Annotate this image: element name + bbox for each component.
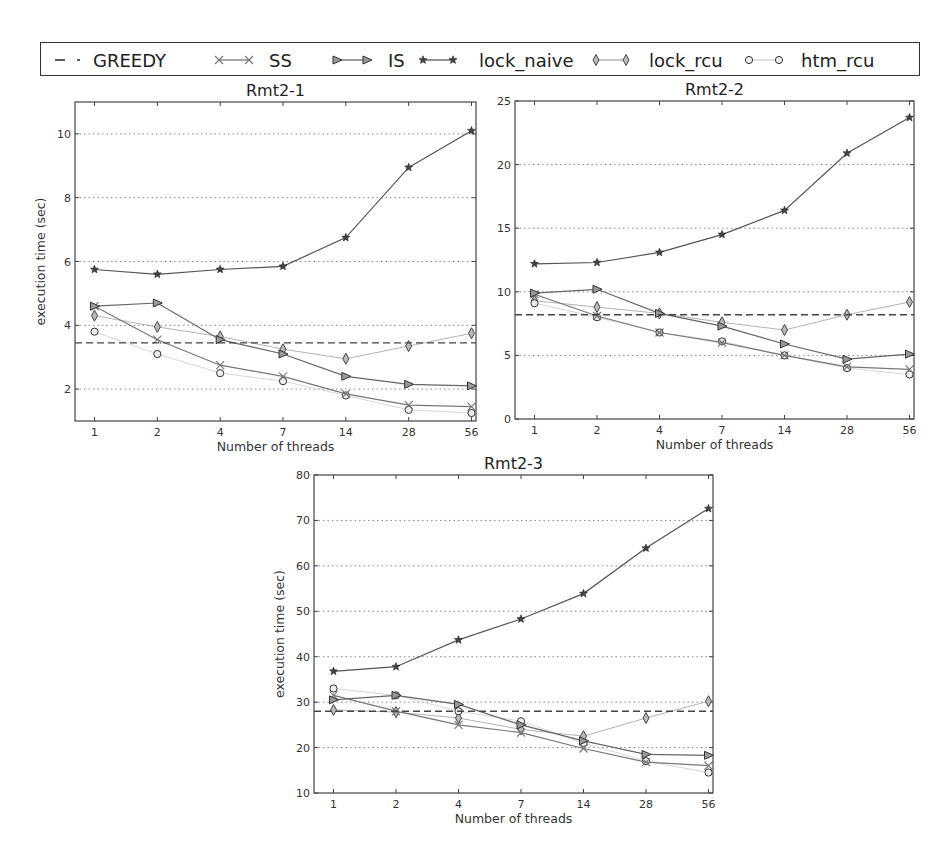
lock_rcu-marker: [343, 353, 349, 364]
x-axis-label: Number of threads: [455, 811, 573, 826]
lock_rcu-marker: [782, 324, 788, 335]
lock_naive-marker: [392, 663, 400, 671]
series-is: [330, 691, 714, 759]
x-tick-label: 2: [594, 424, 601, 437]
IS-marker: [843, 355, 852, 363]
series-lock-naive: [91, 127, 476, 278]
y-tick-label: 10: [57, 128, 71, 141]
x-axis-label: Number of threads: [656, 437, 774, 452]
chart-title: Rmt2-3: [484, 454, 543, 473]
htm_rcu-marker: [531, 300, 538, 307]
x-tick-label: 1: [91, 426, 98, 439]
y-tick-label: 15: [497, 222, 511, 235]
htm_rcu-marker: [91, 328, 98, 335]
chart-rmt2-2: 05101520251247142856Rmt2-2Number of thre…: [497, 80, 917, 452]
x-tick-label: 1: [330, 798, 337, 811]
x-tick-label: 7: [518, 798, 525, 811]
y-tick-label: 50: [296, 605, 310, 618]
htm_rcu-marker: [705, 769, 712, 776]
chart-title: Rmt2-1: [246, 81, 305, 100]
lock_naive-marker: [593, 258, 601, 266]
x-tick-label: 4: [455, 798, 462, 811]
y-tick-label: 6: [64, 256, 71, 269]
series-ss: [531, 290, 914, 373]
lock_naive-marker: [531, 260, 539, 268]
chart-title: Rmt2-2: [685, 80, 744, 99]
htm_rcu-marker: [843, 365, 850, 372]
x-tick-label: 56: [702, 798, 716, 811]
htm_rcu-marker: [154, 350, 161, 357]
y-tick-label: 5: [504, 349, 511, 362]
charts-canvas: 2468101247142856Rmt2-1Number of threadse…: [0, 0, 951, 858]
lock_rcu-marker: [469, 328, 475, 339]
IS-marker: [781, 340, 790, 348]
htm_rcu-marker: [718, 338, 725, 345]
lock_rcu-marker: [907, 296, 913, 307]
htm_rcu-marker: [468, 409, 475, 416]
y-tick-label: 10: [497, 286, 511, 299]
x-tick-label: 1: [531, 424, 538, 437]
x-tick-label: 14: [577, 798, 591, 811]
series-lock-naive: [330, 504, 713, 674]
y-tick-label: 30: [296, 696, 310, 709]
IS-marker: [91, 302, 100, 310]
plot-frame: [314, 475, 713, 793]
chart-rmt2-3: 10203040506070801247142856Rmt2-3Number o…: [272, 454, 716, 826]
lock_rcu-marker: [706, 696, 712, 707]
IS-marker: [405, 380, 414, 388]
series-htm-rcu: [91, 328, 475, 417]
y-tick-label: 10: [296, 787, 310, 800]
IS-marker: [342, 372, 351, 380]
lock_rcu-marker: [594, 302, 600, 313]
lock_naive-marker: [580, 589, 588, 597]
lock_rcu-marker: [154, 321, 160, 332]
IS-marker: [330, 696, 339, 704]
x-tick-label: 7: [280, 426, 287, 439]
series-is: [531, 285, 915, 363]
x-tick-label: 28: [840, 424, 854, 437]
y-tick-label: 2: [64, 383, 71, 396]
series-htm-rcu: [531, 300, 913, 378]
lock_naive-marker: [91, 265, 99, 273]
lock_naive-marker: [153, 270, 161, 278]
htm_rcu-marker: [330, 685, 337, 692]
lock_rcu-marker: [643, 713, 649, 724]
x-tick-label: 14: [339, 426, 353, 439]
htm_rcu-marker: [217, 370, 224, 377]
lock_naive-marker: [330, 667, 338, 675]
x-tick-label: 56: [465, 426, 479, 439]
x-tick-label: 4: [656, 424, 663, 437]
x-axis-label: Number of threads: [217, 439, 335, 454]
lock_naive-marker: [455, 636, 463, 644]
IS-marker: [906, 350, 915, 358]
lock_rcu-marker: [331, 704, 337, 715]
y-tick-label: 80: [296, 469, 310, 482]
y-axis-label: execution time (sec): [33, 198, 48, 326]
chart-rmt2-1: 2468101247142856Rmt2-1Number of threadse…: [33, 81, 479, 454]
lock_rcu-marker: [92, 310, 98, 321]
y-tick-label: 8: [64, 192, 71, 205]
y-tick-label: 25: [497, 95, 511, 108]
lock_naive-marker: [216, 265, 224, 273]
x-tick-label: 14: [778, 424, 792, 437]
lock_naive-marker: [517, 615, 525, 623]
y-tick-label: 20: [497, 159, 511, 172]
y-axis-label: execution time (sec): [272, 570, 287, 698]
x-tick-label: 4: [217, 426, 224, 439]
y-tick-label: 40: [296, 651, 310, 664]
y-tick-label: 60: [296, 560, 310, 573]
IS-marker: [705, 751, 714, 759]
x-tick-label: 28: [402, 426, 416, 439]
y-tick-label: 70: [296, 514, 310, 527]
y-tick-label: 0: [504, 413, 511, 426]
x-tick-label: 28: [639, 798, 653, 811]
series-lock-naive: [531, 113, 914, 267]
x-tick-label: 7: [719, 424, 726, 437]
x-tick-label: 56: [903, 424, 917, 437]
plot-frame: [75, 102, 476, 421]
lock_naive-marker: [906, 113, 914, 121]
lock_naive-marker: [718, 230, 726, 238]
lock_naive-marker: [279, 262, 287, 270]
y-tick-label: 4: [64, 319, 71, 332]
x-tick-label: 2: [154, 426, 161, 439]
